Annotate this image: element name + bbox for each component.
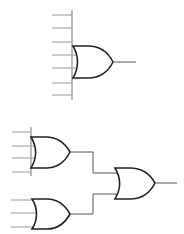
or-gate-c (115, 168, 155, 199)
logic-diagram (0, 0, 184, 234)
bottom-circuit (11, 127, 177, 229)
or-gate-top (73, 46, 113, 78)
wire-b-to-c (70, 194, 117, 214)
wire-a-to-c (70, 152, 117, 173)
top-circuit (52, 10, 136, 100)
or-gate-b (32, 199, 70, 229)
top-input-wires (52, 15, 78, 95)
or-gate-a (31, 137, 70, 168)
